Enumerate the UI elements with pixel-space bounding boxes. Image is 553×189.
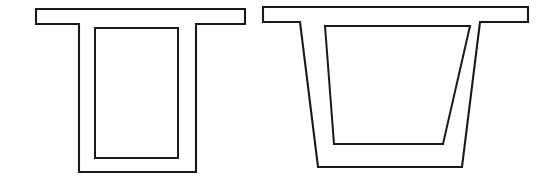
rectangular-box-girder-cavity — [95, 28, 178, 158]
girder-cross-section-figure — [0, 0, 553, 189]
